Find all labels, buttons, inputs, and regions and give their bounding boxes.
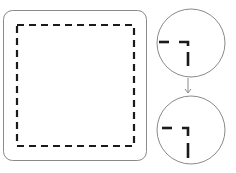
outer-panel: [4, 11, 147, 161]
magnifier-after: [157, 96, 225, 164]
arrow-down-icon: [185, 78, 191, 93]
diagram-canvas: [0, 0, 236, 173]
magnifier-before: [157, 9, 225, 77]
